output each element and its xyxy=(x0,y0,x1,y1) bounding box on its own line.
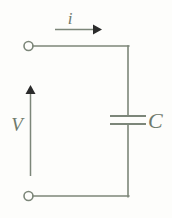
circuit-diagram-canvas: i C V xyxy=(0,0,172,218)
terminal-top xyxy=(24,42,33,51)
current-arrow-group xyxy=(55,25,102,35)
voltage-label: V xyxy=(11,114,25,135)
voltage-arrow-head xyxy=(26,85,36,94)
circuit-diagram-figure: i C V xyxy=(0,0,172,218)
capacitor-label: C xyxy=(148,108,163,133)
current-label: i xyxy=(68,9,73,28)
voltage-arrow-group xyxy=(26,85,36,176)
capacitor-symbol xyxy=(110,116,146,124)
current-arrow-head xyxy=(93,25,102,35)
terminal-bottom xyxy=(24,192,33,201)
